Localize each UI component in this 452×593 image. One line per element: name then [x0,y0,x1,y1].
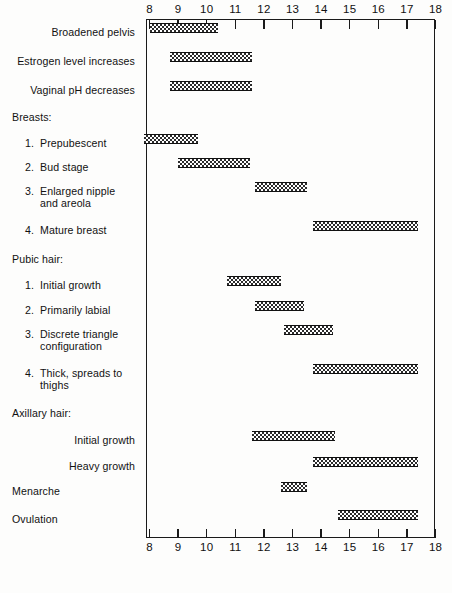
row-label-breast-mature: 4.Mature breast [25,224,107,236]
row-number-pubic-discrete-triangle: 3. [25,328,34,340]
axis-tick-bottom-14 [320,529,321,538]
row-number-pubic-primarily-labial: 2. [25,304,34,316]
axis-label-top-17: 17 [394,3,420,15]
timeline-bar-breast-prepubescent [144,134,198,144]
row-label-text-breast-prepubescent: Prepubescent [40,137,107,149]
row-label-text-pubic-primarily-labial: Primarily labial [40,304,110,316]
axis-tick-top-18 [435,20,436,29]
axis-tick-top-12 [263,20,264,29]
row-label-breast-enlarged-nipple: 3.Enlarged nipple and areola [25,185,115,210]
row-label-pubic-discrete-triangle: 3.Discrete triangle configuration [25,328,118,353]
timeline-bar-estrogen-level [170,52,253,62]
row-number-breast-enlarged-nipple: 3. [25,185,34,197]
timeline-bar-broadened-pelvis [150,23,219,33]
row-label-menarche: Menarche [12,485,60,497]
axis-label-top-11: 11 [222,3,248,15]
row-number-breast-mature: 4. [25,224,34,236]
timeline-bar-pubic-discrete-triangle [284,325,333,335]
timeline-bar-pubic-initial-growth [227,276,281,286]
axis-label-top-9: 9 [165,3,191,15]
row-label-pubic-hair-heading: Pubic hair: [12,253,63,265]
row-label-breast-prepubescent: 1.Prepubescent [25,137,107,149]
axis-tick-bottom-11 [235,529,236,538]
axis-tick-top-14 [320,20,321,29]
axis-tick-top-11 [235,20,236,29]
row-label-broadened-pelvis: Broadened pelvis [52,26,135,38]
row-label-breasts-heading: Breasts: [12,111,52,123]
row-label-ovulation: Ovulation [12,513,58,525]
axis-label-top-18: 18 [423,3,449,15]
row-label-breast-bud-stage: 2.Bud stage [25,161,89,173]
row-number-pubic-initial-growth: 1. [25,279,34,291]
axis-label-bottom-9: 9 [165,541,191,553]
row-label-text-pubic-initial-growth: Initial growth [40,279,101,291]
axis-tick-bottom-17 [406,529,407,538]
row-label-text-breast-mature: Mature breast [40,224,107,236]
puberty-timeline-chart: 89101112131415161718 8910111213141516171… [0,0,452,593]
timeline-bar-menarche [281,482,307,492]
timeline-bar-breast-bud-stage [178,158,250,168]
row-label-estrogen-level: Estrogen level increases [17,55,135,67]
axis-label-top-16: 16 [365,3,391,15]
axis-tick-bottom-8 [149,529,150,538]
row-label-axillary-hair-heading: Axillary hair: [12,407,71,419]
axis-tick-bottom-12 [263,529,264,538]
axis-tick-top-15 [349,20,350,29]
row-label-text-breast-bud-stage: Bud stage [40,161,89,173]
timeline-bar-vaginal-ph [170,81,253,91]
axis-tick-top-17 [406,20,407,29]
row-label-axillary-initial-growth: Initial growth [74,434,135,446]
axis-label-bottom-10: 10 [194,541,220,553]
timeline-bar-breast-mature [313,221,419,231]
axis-label-bottom-17: 17 [394,541,420,553]
axis-tick-top-16 [378,20,379,29]
axis-label-bottom-18: 18 [423,541,449,553]
timeline-bar-ovulation [338,510,418,520]
timeline-bar-axillary-initial-growth [252,431,335,441]
axis-tick-bottom-10 [206,529,207,538]
axis-label-top-13: 13 [280,3,306,15]
axis-label-top-12: 12 [251,3,277,15]
row-number-breast-bud-stage: 2. [25,161,34,173]
row-label-pubic-initial-growth: 1.Initial growth [25,279,101,291]
axis-label-top-14: 14 [308,3,334,15]
axis-label-bottom-11: 11 [222,541,248,553]
axis-label-top-10: 10 [194,3,220,15]
row-label-text-pubic-discrete-triangle: Discrete triangle configuration [40,328,118,353]
axis-tick-bottom-13 [292,529,293,538]
row-label-text-breast-enlarged-nipple: Enlarged nipple and areola [40,185,115,210]
axis-label-bottom-12: 12 [251,541,277,553]
axis-label-bottom-16: 16 [365,541,391,553]
axis-label-bottom-15: 15 [337,541,363,553]
axis-label-bottom-14: 14 [308,541,334,553]
axis-tick-bottom-18 [435,529,436,538]
row-label-axillary-heavy-growth: Heavy growth [69,460,135,472]
row-label-pubic-thick-spreads: 4.Thick, spreads to thighs [25,367,122,392]
axis-tick-bottom-9 [177,529,178,538]
row-label-pubic-primarily-labial: 2.Primarily labial [25,304,110,316]
timeline-bar-pubic-thick-spreads [313,364,419,374]
row-number-pubic-thick-spreads: 4. [25,367,34,379]
timeline-bar-pubic-primarily-labial [255,301,304,311]
row-number-breast-prepubescent: 1. [25,137,34,149]
axis-label-bottom-8: 8 [137,541,163,553]
axis-label-bottom-13: 13 [280,541,306,553]
timeline-bar-breast-enlarged-nipple [255,182,306,192]
row-label-vaginal-ph: Vaginal pH decreases [30,84,135,96]
axis-label-top-8: 8 [137,3,163,15]
axis-tick-bottom-15 [349,529,350,538]
axis-tick-bottom-16 [378,529,379,538]
axis-tick-top-13 [292,20,293,29]
axis-label-top-15: 15 [337,3,363,15]
row-label-text-pubic-thick-spreads: Thick, spreads to thighs [40,367,122,392]
timeline-bar-axillary-heavy-growth [313,457,419,467]
